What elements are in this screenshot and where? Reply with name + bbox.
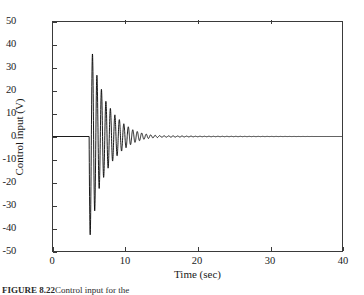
signal-plot-svg (53, 22, 342, 251)
y-tick-label-m20: -20 (0, 177, 16, 188)
y-tick-label-10: 10 (0, 108, 16, 119)
y-tick-label-0: 0 (0, 131, 16, 142)
figure-caption-label: FIGURE 8.22 (2, 285, 55, 295)
x-axis-title: Time (sec) (52, 268, 343, 280)
y-tick-label-m10: -10 (0, 154, 16, 165)
y-tick-label-30: 30 (0, 62, 16, 73)
y-tick-label-m30: -30 (0, 200, 16, 211)
x-tick-label-0: 0 (32, 256, 72, 267)
y-tick-label-50: 50 (0, 16, 16, 27)
y-tick-label-20: 20 (0, 85, 16, 96)
y-tick-label-m40: -40 (0, 223, 16, 234)
x-tick-label-40: 40 (323, 256, 363, 267)
x-tick-label-20: 20 (177, 256, 217, 267)
control-input-trace (53, 54, 342, 235)
y-tick-label-40: 40 (0, 39, 16, 50)
plot-area (52, 21, 343, 252)
figure-caption-text: Control input for the (55, 285, 129, 295)
x-tick-label-30: 30 (250, 256, 290, 267)
figure-caption: FIGURE 8.22Control input for the (2, 285, 362, 295)
x-tick-mark-40 (343, 247, 344, 251)
x-tick-label-10: 10 (105, 256, 145, 267)
y-tick-mark-m50 (53, 252, 57, 253)
y-tick-label-m50: -50 (0, 246, 16, 257)
